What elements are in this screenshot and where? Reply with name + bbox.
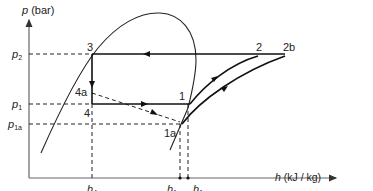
arrow-diag-icon xyxy=(150,109,158,115)
x-axis-label: h (kJ / kg) xyxy=(275,171,321,183)
p-h-diagram: p (bar) h (kJ / kg) p2 p1 p1a h4 h1a h1 … xyxy=(0,0,373,191)
p1a-label: p1a xyxy=(7,118,22,131)
h4-label: h4 xyxy=(87,183,97,191)
guide-lines xyxy=(29,54,188,178)
point-2-label: 2 xyxy=(256,41,262,53)
point-1a-label: 1a xyxy=(164,127,177,139)
point-3-label: 3 xyxy=(87,41,93,53)
arrow-right-icon xyxy=(141,101,148,107)
point-2b-label: 2b xyxy=(283,41,295,53)
point-1-label: 1 xyxy=(179,90,185,102)
flow-arrows xyxy=(89,51,228,115)
h1-label: h1 xyxy=(193,183,203,191)
arrow-left-icon xyxy=(143,51,150,57)
p2-label: p2 xyxy=(11,48,22,61)
point-4-label: 4 xyxy=(84,107,90,119)
point-4a-label: 4a xyxy=(75,86,88,98)
p1-label: p1 xyxy=(11,98,22,111)
compression-1-2 xyxy=(190,56,258,104)
y-axis-label: p (bar) xyxy=(21,4,54,16)
h1a-label: h1a xyxy=(167,183,181,191)
arrow-down-icon xyxy=(89,81,95,88)
